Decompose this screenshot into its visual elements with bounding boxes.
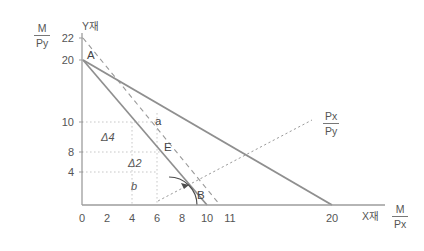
budget-line-figure: M Py Y재 22 20 10 8 4 0 2 4 6 8 10 11 20 … <box>0 0 424 251</box>
price-ratio-label: Px Py <box>323 110 339 137</box>
price-ratio-numerator: Px <box>323 110 339 124</box>
x-axis-ratio-numerator: M <box>392 203 408 217</box>
y-tick-20: 20 <box>52 55 74 66</box>
x-axis-ratio-label: M Px <box>392 203 408 230</box>
y-tick-4: 4 <box>52 167 74 178</box>
x-tick-6: 6 <box>147 213 167 224</box>
point-label-B: B <box>197 190 205 202</box>
y-axis-name: Y재 <box>82 21 99 32</box>
point-label-a: a <box>155 116 161 128</box>
region-label-b: b <box>131 181 137 192</box>
x-tick-2: 2 <box>97 213 117 224</box>
point-label-A: A <box>87 50 95 62</box>
x-tick-0: 0 <box>72 213 92 224</box>
y-tick-22: 22 <box>52 33 74 44</box>
y-tick-8: 8 <box>52 147 74 158</box>
region-label-delta-4: Δ4 <box>101 132 115 143</box>
region-label-delta-2: Δ2 <box>128 158 142 169</box>
budget-line-flat <box>83 60 332 205</box>
y-axis-ratio-label: M Py <box>34 22 50 49</box>
y-axis-ratio-numerator: M <box>34 22 50 36</box>
x-tick-8: 8 <box>172 213 192 224</box>
rotation-arc <box>169 177 197 205</box>
x-tick-10: 10 <box>197 213 217 224</box>
x-tick-4: 4 <box>122 213 142 224</box>
x-tick-20: 20 <box>322 213 342 224</box>
x-axis-name: X재 <box>362 211 379 222</box>
x-axis-ratio-denominator: Px <box>392 217 408 230</box>
x-tick-11: 11 <box>220 213 240 224</box>
point-label-E: E <box>164 142 172 154</box>
price-ratio-line <box>158 120 312 201</box>
price-ratio-denominator: Py <box>323 124 339 137</box>
y-axis-ratio-denominator: Py <box>34 36 50 49</box>
y-tick-10: 10 <box>52 117 74 128</box>
